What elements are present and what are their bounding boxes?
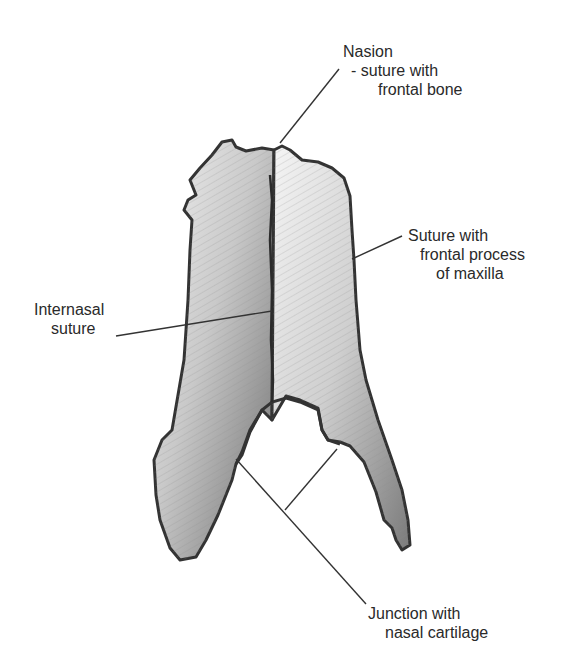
nasion-label-line3: frontal bone xyxy=(343,80,463,99)
cartilage-label-line1: Junction with xyxy=(368,604,488,623)
maxilla-label-line3: of maxilla xyxy=(408,264,525,283)
cartilage-leader-branch xyxy=(285,449,337,510)
cartilage-junction-label: Junction with nasal cartilage xyxy=(368,604,488,642)
cartilage-label-line2: nasal cartilage xyxy=(368,623,488,642)
cartilage-leader-main xyxy=(236,459,366,604)
maxilla-label-line2: frontal process xyxy=(408,245,525,264)
internasal-suture-label: Internasal suture xyxy=(34,300,104,338)
nasion-label-line2: - suture with xyxy=(343,61,463,80)
nasion-leader xyxy=(280,69,339,143)
internasal-label-line1: Internasal xyxy=(34,300,104,319)
maxilla-suture-label: Suture with frontal process of maxilla xyxy=(408,226,525,283)
maxilla-label-line1: Suture with xyxy=(408,226,525,245)
internasal-label-line2: suture xyxy=(34,319,104,338)
diagram-canvas: Nasion - suture with frontal bone Suture… xyxy=(0,0,575,664)
nasion-label-line1: Nasion xyxy=(343,42,463,61)
maxilla-leader xyxy=(352,236,402,259)
nasion-label: Nasion - suture with frontal bone xyxy=(343,42,463,99)
